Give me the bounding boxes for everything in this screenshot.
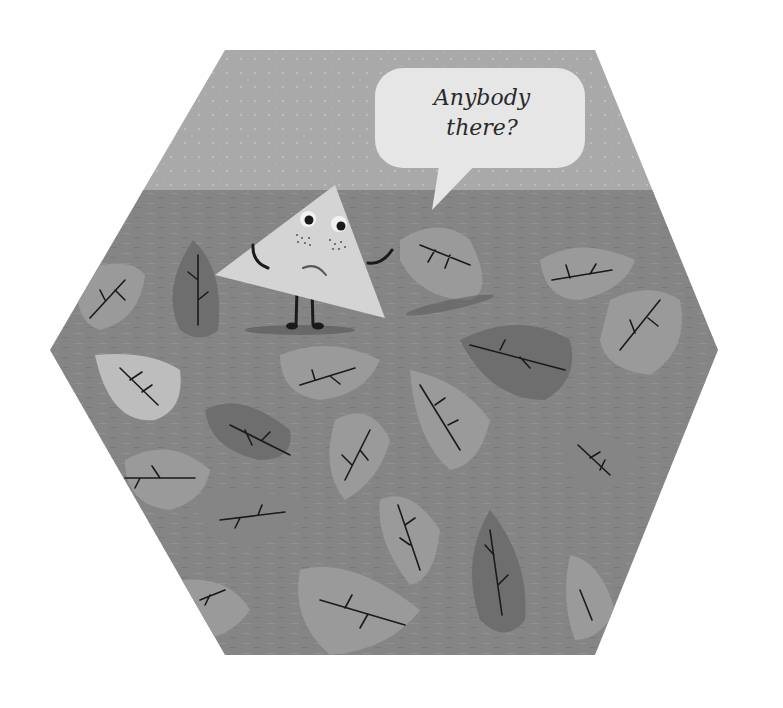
speech-line-1: Anybody: [432, 85, 531, 110]
speech-line-2: there?: [446, 115, 518, 140]
right-foot: [312, 323, 324, 330]
left-eye-icon: [305, 216, 314, 225]
right-eye-icon: [337, 222, 346, 231]
left-foot: [286, 323, 298, 330]
illustration-scene: Anybody there?: [0, 0, 783, 708]
character-shadow: [245, 325, 355, 335]
